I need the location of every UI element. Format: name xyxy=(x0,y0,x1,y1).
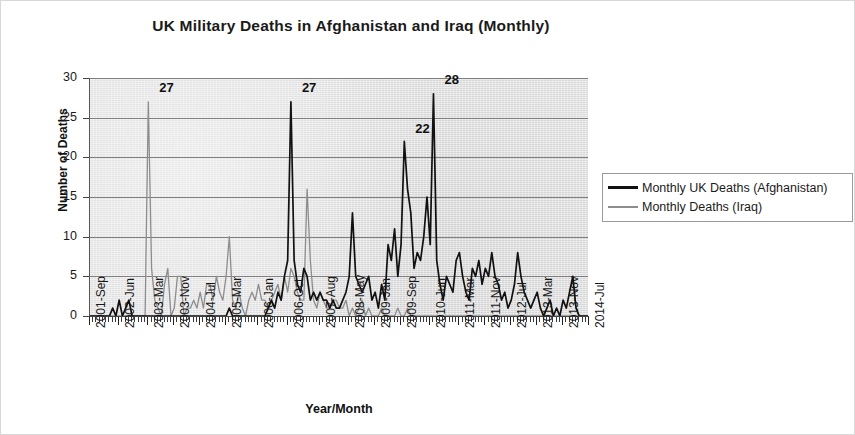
legend-label-afghanistan: Monthly UK Deaths (Afghanistan) xyxy=(642,181,828,195)
y-axis-tick-mark xyxy=(83,118,89,119)
x-axis-tick-label: 2007-Aug xyxy=(324,276,338,328)
x-axis-tick-label: 2011-Mar xyxy=(463,278,477,328)
x-axis-title: Year/Month xyxy=(189,402,489,416)
x-axis-major-tick xyxy=(173,317,174,325)
x-axis-minor-tick xyxy=(452,317,453,322)
x-axis-tick-label: 2013-Nov xyxy=(567,276,581,328)
x-axis-minor-tick xyxy=(556,317,557,322)
x-axis-minor-tick xyxy=(277,317,278,322)
x-axis-minor-tick xyxy=(397,317,398,322)
y-axis-tick-mark xyxy=(83,78,89,79)
x-axis-minor-tick xyxy=(423,317,424,322)
x-axis-minor-tick xyxy=(196,317,197,322)
x-axis-minor-tick xyxy=(426,317,427,322)
x-axis-major-tick xyxy=(536,317,537,325)
x-axis-minor-tick xyxy=(533,317,534,322)
x-axis-major-tick xyxy=(147,317,148,325)
x-axis-minor-tick xyxy=(138,317,139,322)
y-axis-tick-label: 30 xyxy=(49,70,77,84)
y-axis-tick-mark xyxy=(83,157,89,158)
x-axis-tick-label: 2004-Jul xyxy=(204,282,218,328)
x-axis-major-tick xyxy=(225,317,226,325)
x-axis-tick-label: 2012-Jul xyxy=(515,282,529,328)
x-axis-minor-tick xyxy=(368,317,369,322)
x-axis-minor-tick xyxy=(112,317,113,322)
x-axis-major-tick xyxy=(588,317,589,325)
x-axis-major-tick xyxy=(458,317,459,325)
x-axis-tick-label: 2014-Jul xyxy=(593,282,607,328)
x-axis-major-tick xyxy=(400,317,401,325)
peak-annotation-label: 27 xyxy=(159,80,173,95)
x-axis-minor-tick xyxy=(449,317,450,322)
x-axis-minor-tick xyxy=(420,317,421,322)
x-axis-tick-label: 2010-Jun xyxy=(434,278,448,328)
x-axis-major-tick xyxy=(562,317,563,325)
x-axis-major-tick xyxy=(287,317,288,325)
x-axis-minor-tick xyxy=(339,317,340,322)
x-axis-tick-label: 2013-Mar xyxy=(541,277,555,328)
x-axis-minor-tick xyxy=(309,317,310,322)
y-axis-tick-label: 25 xyxy=(49,110,77,124)
peak-annotation-label: 27 xyxy=(302,80,316,95)
x-axis-major-tick xyxy=(199,317,200,325)
peak-annotation-label: 28 xyxy=(444,72,458,87)
y-axis-tick-mark xyxy=(83,197,89,198)
x-axis-minor-tick xyxy=(222,317,223,322)
x-axis-minor-tick xyxy=(170,317,171,322)
x-axis-major-tick xyxy=(510,317,511,325)
legend-label-iraq: Monthly Deaths (Iraq) xyxy=(642,200,762,214)
x-axis-minor-tick xyxy=(144,317,145,322)
y-axis-tick-label: 15 xyxy=(49,189,77,203)
x-axis-tick-label: 2009-Sep xyxy=(405,276,419,328)
x-axis-minor-tick xyxy=(280,317,281,322)
x-axis-tick-label: 2003-Nov xyxy=(178,276,192,328)
x-axis-minor-tick xyxy=(251,317,252,322)
x-axis-major-tick xyxy=(429,317,430,325)
y-axis-tick-mark xyxy=(83,276,89,277)
x-axis-minor-tick xyxy=(290,317,291,322)
x-axis-minor-tick xyxy=(481,317,482,322)
chart-legend: Monthly UK Deaths (Afghanistan) Monthly … xyxy=(602,173,853,222)
x-axis-major-tick xyxy=(319,317,320,325)
legend-item-iraq[interactable]: Monthly Deaths (Iraq) xyxy=(606,197,849,216)
x-axis-minor-tick xyxy=(478,317,479,322)
x-axis-minor-tick xyxy=(254,317,255,322)
x-axis-minor-tick xyxy=(371,317,372,322)
x-axis-minor-tick xyxy=(313,317,314,322)
x-axis-tick-label: 2002-Jun xyxy=(123,278,137,328)
x-axis-major-tick xyxy=(348,317,349,325)
x-axis-tick-label: 2001-Sep xyxy=(94,276,108,328)
x-axis-major-tick xyxy=(257,317,258,325)
x-axis-minor-tick xyxy=(193,317,194,322)
x-axis-tick-label: 2006-Oct xyxy=(292,279,306,328)
y-axis-tick-label: 20 xyxy=(49,149,77,163)
x-axis-major-tick xyxy=(89,317,90,325)
x-axis-minor-tick xyxy=(530,317,531,322)
iraq-line-swatch xyxy=(608,206,638,208)
chart-figure: UK Military Deaths in Afghanistan and Ir… xyxy=(0,0,855,435)
x-axis-minor-tick xyxy=(167,317,168,322)
x-axis-minor-tick xyxy=(248,317,249,322)
x-axis-minor-tick xyxy=(245,317,246,322)
chart-title: UK Military Deaths in Afghanistan and Ir… xyxy=(1,17,701,35)
x-axis-major-tick xyxy=(374,317,375,325)
y-axis-tick-label: 0 xyxy=(49,308,77,322)
x-axis-minor-tick xyxy=(141,317,142,322)
x-axis-minor-tick xyxy=(115,317,116,322)
x-axis-minor-tick xyxy=(504,317,505,322)
x-axis-tick-label: 2005-Mar xyxy=(230,277,244,328)
x-axis-tick-label: 2006-Jan xyxy=(262,278,276,328)
x-axis-major-tick xyxy=(484,317,485,325)
x-axis-minor-tick xyxy=(283,317,284,322)
peak-annotation-label: 22 xyxy=(415,121,429,136)
y-axis-tick-label: 10 xyxy=(49,229,77,243)
x-axis-minor-tick xyxy=(585,317,586,322)
x-axis-major-tick xyxy=(118,317,119,325)
x-axis-minor-tick xyxy=(219,317,220,322)
x-axis-minor-tick xyxy=(306,317,307,322)
x-axis-minor-tick xyxy=(316,317,317,322)
x-axis-minor-tick xyxy=(345,317,346,322)
legend-item-afghanistan[interactable]: Monthly UK Deaths (Afghanistan) xyxy=(606,178,849,197)
x-axis-minor-tick xyxy=(342,317,343,322)
x-axis-minor-tick xyxy=(108,317,109,322)
